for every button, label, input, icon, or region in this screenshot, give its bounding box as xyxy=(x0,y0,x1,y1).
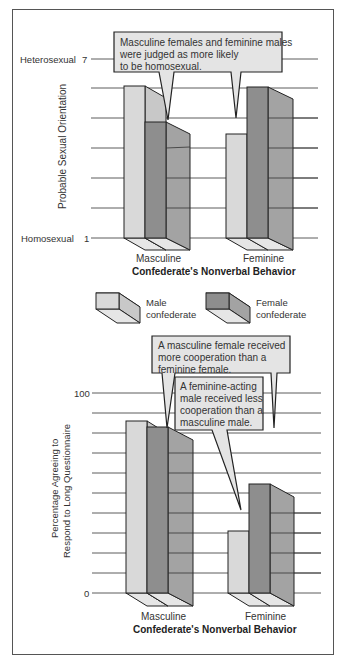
bottom-callout2-line-2: male received less xyxy=(180,393,263,404)
bottom-xlabel: Confederate's Nonverbal Behavior xyxy=(133,624,297,635)
top-ytick-heterosexual: Heterosexual xyxy=(20,54,76,65)
legend-swatch-female xyxy=(206,293,250,323)
bottom-ylabel-line1: Percentage Agreeing to xyxy=(49,439,60,538)
bottom-chart: A masculine female received more coopera… xyxy=(49,336,321,635)
top-xcat-masculine: Masculine xyxy=(136,253,181,264)
legend-male-line1: Male xyxy=(146,297,167,308)
top-ylabel: Probable Sexual Orientation xyxy=(57,84,68,209)
bottom-callout1-line-3: feminine female. xyxy=(158,364,231,375)
top-ytick-7: 7 xyxy=(82,54,87,65)
legend: Male confederate Female confederate xyxy=(96,293,306,323)
legend-swatch-male xyxy=(96,293,140,323)
top-bar-feminine-female xyxy=(247,87,293,250)
legend-female-line2: confederate xyxy=(256,309,306,320)
top-xlabel: Confederate's Nonverbal Behavior xyxy=(132,266,296,277)
top-chart: Masculine females and feminine males wer… xyxy=(20,32,318,277)
top-callout-line-1: Masculine females and feminine males xyxy=(120,37,292,48)
figure-svg: Masculine females and feminine males wer… xyxy=(0,0,344,665)
bottom-ylabel-line2: Respond to Long Questionnaire xyxy=(61,424,72,558)
bottom-callout1-line-2: more cooperation than a xyxy=(158,352,267,363)
top-bar-masculine-female xyxy=(145,122,190,250)
bottom-bar-masculine-female xyxy=(147,427,193,606)
bottom-callout2-line-4: masculine male. xyxy=(180,417,252,428)
bottom-bar-feminine-female xyxy=(249,484,294,606)
legend-male-line2: confederate xyxy=(146,309,196,320)
top-callout-line-3: to be homosexual. xyxy=(120,61,202,72)
bottom-callout2-line-3: cooperation than a xyxy=(180,405,263,416)
bottom-ytick-100: 100 xyxy=(74,388,90,399)
bottom-xcat-masculine: Masculine xyxy=(141,611,186,622)
top-ytick-1: 1 xyxy=(84,233,89,244)
top-ytick-homosexual: Homosexual xyxy=(21,233,74,244)
legend-female-line1: Female xyxy=(256,297,288,308)
top-callout-line-2: were judged as more likely xyxy=(119,49,238,60)
bottom-callout2-line-1: A feminine-acting xyxy=(180,381,257,392)
top-xcat-feminine: Feminine xyxy=(243,253,285,264)
bottom-callout1-line-1: A masculine female received xyxy=(158,340,285,351)
bottom-ytick-0: 0 xyxy=(84,588,89,599)
bottom-xcat-feminine: Feminine xyxy=(245,611,287,622)
